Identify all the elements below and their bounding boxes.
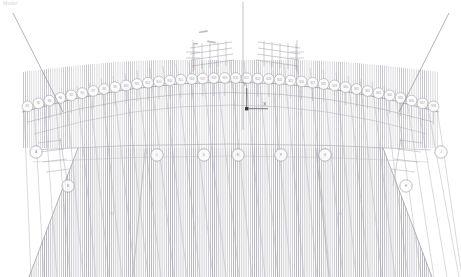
- rim-node-label: N21: [244, 76, 249, 80]
- rim-node-label: N38: [431, 104, 436, 108]
- rim-node-label: N28: [321, 82, 326, 86]
- callout-bubble[interactable]: F: [275, 149, 287, 161]
- callout-bubble[interactable]: J: [435, 146, 447, 158]
- rim-node-label: N37: [420, 101, 425, 105]
- rim-node-label: N3: [48, 99, 52, 103]
- edge-tag-label: S2: [338, 212, 342, 216]
- rim-node-label: N8: [102, 87, 106, 91]
- edge-tag-label: S1: [110, 212, 114, 216]
- callout-label: F: [280, 153, 282, 157]
- drawing-canvas[interactable]: N1N2N3N4N5N6N7N8N9N10N11N12N13N14N15N16N…: [0, 0, 461, 277]
- callout-bubble[interactable]: A: [30, 146, 42, 158]
- rim-node-label: N14: [168, 79, 173, 83]
- rim-node-label: N30: [343, 85, 348, 89]
- rim-node-label: N27: [310, 81, 315, 85]
- callout-bubble[interactable]: E: [232, 149, 244, 161]
- rim-node-label: N12: [146, 81, 151, 85]
- rim-node-label: N25: [288, 79, 293, 83]
- callout-label: E: [237, 153, 239, 157]
- floating-marks: [193, 30, 216, 44]
- rim-node-label: N24: [277, 78, 282, 82]
- rim-node-label: N11: [135, 82, 140, 86]
- rim-node-label: N2: [37, 101, 41, 105]
- rim-node-label: N35: [398, 96, 403, 100]
- callout-label: B: [67, 184, 69, 188]
- callout-bubble[interactable]: H: [400, 180, 412, 192]
- callout-bubble[interactable]: G: [319, 149, 331, 161]
- rim-node-label: N7: [92, 89, 96, 93]
- rim-node-label: N18: [211, 76, 216, 80]
- rim-node-label: N31: [354, 87, 359, 91]
- rim-node-label: N29: [332, 84, 337, 88]
- rim-node-label: N36: [409, 99, 414, 103]
- rim-node-label: N15: [178, 78, 183, 82]
- callout-bubble[interactable]: C: [151, 149, 163, 161]
- model-title-label: Model: [3, 0, 18, 7]
- rim-node-label: N9: [113, 85, 117, 89]
- rim-node-label: N13: [157, 80, 162, 84]
- rim-node-label: N10: [124, 84, 129, 88]
- callout-bubble[interactable]: D: [198, 149, 210, 161]
- rim-node-label: N1: [26, 104, 30, 108]
- rim-node-label: N23: [266, 77, 271, 81]
- cad-viewport[interactable]: Model: [0, 0, 461, 277]
- rim-node-label: N34: [387, 93, 392, 97]
- rim-node-label: N20: [233, 76, 238, 80]
- rim-node-label: N6: [81, 91, 85, 95]
- rim-node-label: N17: [200, 77, 205, 81]
- rim-node-label: N5: [70, 93, 74, 97]
- gizmo-origin: [245, 107, 248, 110]
- rim-node-label: N32: [365, 89, 370, 93]
- callout-bubble[interactable]: B: [62, 180, 74, 192]
- rim-node-label: N22: [255, 77, 260, 81]
- rim-node-label: N26: [299, 80, 304, 84]
- rim-node-label: N19: [222, 76, 227, 80]
- rim-node-label: N16: [189, 77, 194, 81]
- rim-node-label: N4: [59, 96, 63, 100]
- rim-node-label: N33: [376, 91, 381, 95]
